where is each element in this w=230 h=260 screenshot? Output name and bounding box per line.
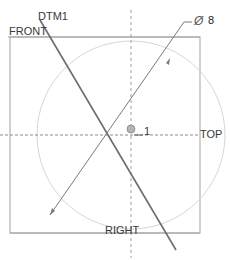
dtm1-label[interactable]: DTM1: [38, 11, 68, 22]
top-datum-label[interactable]: TOP: [200, 129, 222, 140]
right-datum-label[interactable]: RIGHT: [105, 225, 139, 236]
dimension-arrow-upper: [166, 58, 170, 65]
sketch-canvas[interactable]: DTM1 FRONT TOP RIGHT 1 Ø 8: [0, 0, 230, 260]
center-point[interactable]: [127, 125, 135, 133]
diameter-dimension-line[interactable]: [50, 22, 184, 215]
point-label: 1: [144, 126, 150, 137]
front-datum-label[interactable]: FRONT: [9, 26, 47, 37]
diameter-value[interactable]: 8: [208, 15, 214, 26]
sketch-graphics: [0, 0, 230, 260]
diameter-symbol-icon: Ø: [194, 15, 203, 27]
